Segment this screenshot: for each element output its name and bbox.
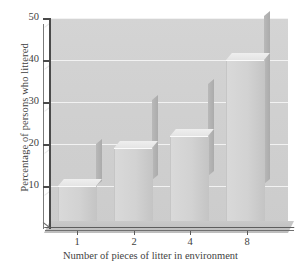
x-tick-label-4: 4 — [175, 236, 205, 247]
bar-2-top-edge — [114, 148, 152, 149]
x-tick-1 — [77, 231, 78, 235]
x-tick-label-2: 2 — [119, 236, 149, 247]
y-tick-30 — [43, 102, 50, 104]
bar-4-top-edge — [226, 60, 264, 61]
bar-4 — [226, 16, 270, 228]
bar-3-top — [170, 129, 214, 136]
y-tick-label-30: 30 — [15, 95, 39, 106]
bar-1-top-edge — [58, 186, 96, 187]
x-axis-title: Number of pieces of litter in environmen… — [0, 250, 301, 261]
bar-4-front — [226, 60, 265, 228]
y-tick-10 — [43, 186, 50, 188]
bar-2 — [114, 100, 158, 228]
x-tick-4 — [190, 231, 191, 235]
y-tick-label-20: 20 — [15, 137, 39, 148]
bar-2-front — [114, 148, 153, 228]
y-tick-label-50: 50 — [15, 11, 39, 22]
y-tick-40 — [43, 60, 50, 62]
bar-3 — [170, 84, 214, 228]
y-axis-line — [49, 18, 51, 229]
x-tick-2 — [134, 231, 135, 235]
bar-3-front — [170, 136, 209, 228]
y-tick-label-10: 10 — [15, 179, 39, 190]
y-axis-depth-line — [43, 24, 44, 229]
x-tick-8 — [247, 231, 248, 235]
bar-4-top — [226, 53, 270, 60]
bar-1 — [58, 144, 102, 228]
bar-2-top — [114, 141, 158, 148]
bar-1-top — [58, 179, 102, 186]
bar-chart: Percentage of persons who littered — [0, 0, 301, 272]
x-tick-label-1: 1 — [62, 236, 92, 247]
bar-3-top-edge — [170, 136, 208, 137]
x-tick-label-8: 8 — [232, 236, 262, 247]
x-axis-line — [45, 230, 294, 231]
chart-floor-edge — [44, 227, 294, 228]
y-tick-50 — [43, 18, 50, 20]
y-tick-20 — [43, 144, 50, 146]
y-tick-label-40: 40 — [15, 53, 39, 64]
